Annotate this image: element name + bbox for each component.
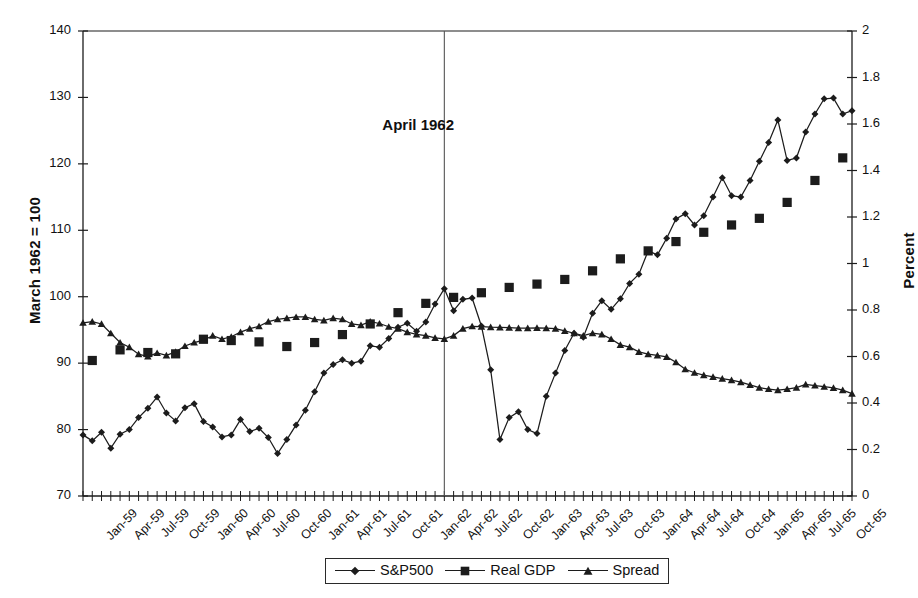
- y-axis-left-tick: 130: [31, 88, 71, 103]
- y-axis-right-tick: 1.6: [862, 115, 902, 130]
- plot-area: [0, 0, 918, 598]
- y-axis-right-tick: 2: [862, 22, 902, 37]
- y-axis-right-tick: 1.4: [862, 162, 902, 177]
- series-s-p500: [80, 95, 856, 457]
- y-axis-right-tick: 0.8: [862, 301, 902, 316]
- square-icon: [445, 564, 485, 578]
- y-axis-right-tick: 0.2: [862, 441, 902, 456]
- y-axis-left-tick: 80: [31, 421, 71, 436]
- y-axis-right-tick: 0: [862, 487, 902, 502]
- y-axis-right-tick: 1: [862, 255, 902, 270]
- series-real-gdp: [88, 153, 848, 365]
- y-axis-left-tick: 140: [31, 22, 71, 37]
- triangle-icon: [568, 564, 608, 578]
- legend-label: S&P500: [380, 562, 433, 579]
- y-axis-right-tick: 1.8: [862, 69, 902, 84]
- y-axis-right-tick: 0.4: [862, 394, 902, 409]
- legend-item-spread[interactable]: Spread: [568, 562, 660, 579]
- legend-item-real-gdp[interactable]: Real GDP: [445, 562, 555, 579]
- y-axis-left-tick: 90: [31, 354, 71, 369]
- legend-item-s-p500[interactable]: S&P500: [335, 562, 433, 579]
- chart-legend: S&P500Real GDPSpread: [325, 558, 669, 584]
- legend-label: Spread: [613, 562, 660, 579]
- y-axis-left-tick: 100: [31, 288, 71, 303]
- series-spread: [79, 313, 856, 396]
- y-axis-left-tick: 120: [31, 155, 71, 170]
- y-axis-right-tick: 0.6: [862, 348, 902, 363]
- legend-label: Real GDP: [490, 562, 555, 579]
- left-axis-title: March 1962 = 100: [26, 141, 43, 381]
- diamond-icon: [335, 564, 375, 578]
- right-axis-title: Percent: [900, 141, 917, 381]
- chart-container: March 1962 = 100 Percent April 1962 7080…: [0, 0, 918, 598]
- y-axis-left-tick: 70: [31, 487, 71, 502]
- y-axis-left-tick: 110: [31, 221, 71, 236]
- april-1962-annotation: April 1962: [382, 116, 454, 133]
- y-axis-right-tick: 1.2: [862, 208, 902, 223]
